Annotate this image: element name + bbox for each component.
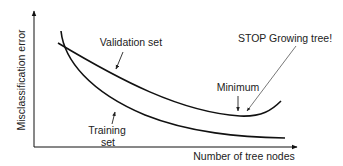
minimum-label: Minimum [217, 81, 260, 93]
stop-pointer-arrow [247, 46, 296, 111]
training-set-label-line2: set [101, 136, 115, 148]
diagram-canvas: Misclassification error Number of tree n… [0, 0, 343, 166]
x-axis-label: Number of tree nodes [193, 150, 295, 162]
training-pointer-arrow [112, 112, 115, 124]
training-set-label-line1: Training [88, 124, 126, 136]
y-axis-label: Misclassification error [15, 29, 27, 130]
validation-pointer-arrow [116, 52, 123, 69]
validation-set-label: Validation set [100, 36, 162, 48]
validation-curve [58, 43, 281, 116]
stop-growing-label: STOP Growing tree! [238, 32, 332, 44]
